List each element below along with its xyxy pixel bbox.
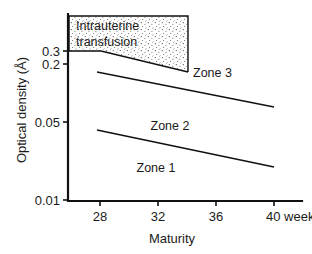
intrauterine-transfusion-label-line2: transfusion [76,35,137,49]
zone2-zone1-boundary [97,130,274,167]
zone3-zone2-boundary [97,72,274,107]
y-tick-label-1: 0.2 [42,57,60,72]
x-axis-title: Maturity [149,231,196,246]
x-tick-label-3: 40 weeks [266,209,312,224]
y-axis-title: Optical density (Å) [14,57,29,163]
intrauterine-transfusion-label-line1: Intrauterine [76,19,139,33]
y-tick-label-3: 0.01 [35,193,60,208]
chart-canvas: 0.3 0.2 0.05 0.01 28 32 36 40 weeks Opti… [0,0,312,254]
x-tick-label-2: 36 [209,209,223,224]
x-tick-label-1: 32 [151,209,165,224]
zone-2-label: Zone 2 [151,119,190,133]
x-tick-label-0: 28 [93,209,107,224]
zone-3-label: Zone 3 [193,66,232,80]
y-tick-label-2: 0.05 [35,115,60,130]
zone-1-label: Zone 1 [137,161,176,175]
optical-density-maturity-chart: 0.3 0.2 0.05 0.01 28 32 36 40 weeks Opti… [0,0,312,254]
